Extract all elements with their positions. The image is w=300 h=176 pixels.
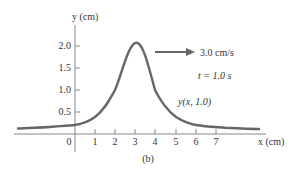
x-tick-label: 5 xyxy=(174,136,179,147)
x-tick-label: 2 xyxy=(113,136,118,147)
figure-caption: (b) xyxy=(142,153,154,165)
y-tick-label: 1.5 xyxy=(59,62,72,73)
x-ticks xyxy=(95,129,216,134)
y-tick-label: 2.0 xyxy=(59,40,72,51)
arrow-head-icon xyxy=(186,48,195,56)
x-tick-label: 7 xyxy=(214,136,219,147)
y-ticks xyxy=(75,46,80,112)
x-tick-label: 6 xyxy=(194,136,199,147)
time-label: t = 1.0 s xyxy=(198,70,232,81)
x-tick-label: 0 xyxy=(67,136,72,147)
x-axis-title: x (cm) xyxy=(258,136,284,148)
y-axis-title: y (cm) xyxy=(72,11,98,23)
y-tick-label: 0.5 xyxy=(59,106,72,117)
pulse-chart: 2.0 1.5 1.0 0.5 0 1 2 3 4 5 6 7 y (cm) x… xyxy=(0,0,300,176)
curve-label: y(x, 1.0) xyxy=(177,96,212,108)
x-tick-label: 4 xyxy=(153,136,158,147)
velocity-label: 3.0 cm/s xyxy=(200,47,234,58)
y-tick-label: 1.0 xyxy=(59,84,72,95)
x-tick-label: 1 xyxy=(93,136,98,147)
x-tick-label: 3 xyxy=(133,136,138,147)
